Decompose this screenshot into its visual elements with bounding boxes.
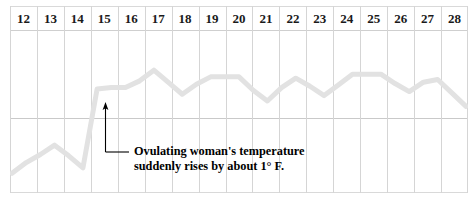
annotation-layer: Ovulating woman's temperature suddenly r… bbox=[10, 6, 468, 193]
chart-screenshot: 1213141516171819202122232425262728 Ovula… bbox=[0, 0, 475, 205]
annotation-caption: Ovulating woman's temperature suddenly r… bbox=[134, 144, 364, 173]
chart-frame: 1213141516171819202122232425262728 Ovula… bbox=[10, 6, 468, 193]
